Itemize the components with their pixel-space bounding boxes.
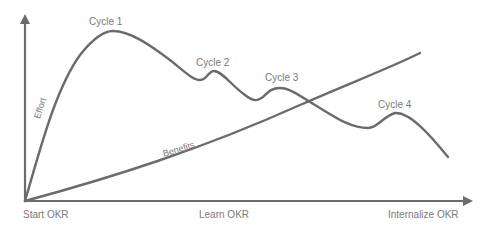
effort-curve [25,31,448,201]
x-label-end: Internalize OKR [388,210,459,220]
cycle-1-label: Cycle 1 [89,17,122,27]
x-label-start: Start OKR [23,210,69,220]
cycle-2-label: Cycle 2 [196,58,229,68]
cycle-4-label: Cycle 4 [378,100,411,110]
okr-diagram [0,0,494,229]
cycle-3-label: Cycle 3 [265,73,298,83]
y-axis-arrow-icon [20,14,30,24]
x-label-middle: Learn OKR [199,210,249,220]
x-axis-arrow-icon [463,196,473,206]
